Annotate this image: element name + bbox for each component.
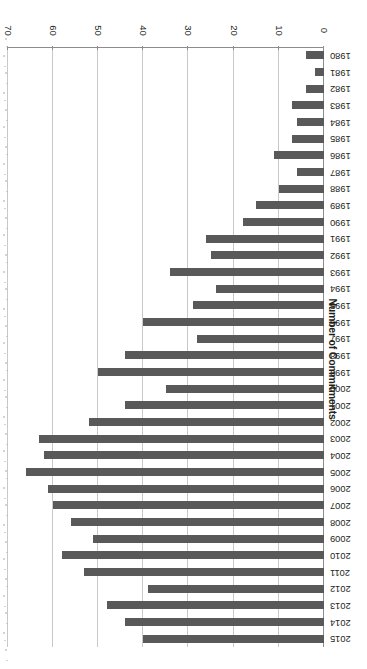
bar-2008 <box>71 518 324 526</box>
scan-speck <box>3 308 5 310</box>
bar-1982 <box>306 85 324 93</box>
bar-row: 1996 <box>7 314 324 331</box>
bar-row: 2007 <box>7 497 324 514</box>
category-tick-label: 2009 <box>330 532 351 545</box>
bar-1988 <box>279 185 324 193</box>
bar-row: 1981 <box>7 64 324 81</box>
scan-speck <box>3 632 5 634</box>
bar-row: 1989 <box>7 197 324 214</box>
bar-2014 <box>125 618 324 626</box>
bar-row: 2012 <box>7 580 324 597</box>
bar-row: 1985 <box>7 130 324 147</box>
scan-speck <box>3 126 5 128</box>
value-tick-label: 40 <box>138 21 149 41</box>
category-tick-label: 1995 <box>330 299 351 312</box>
bar-2009 <box>93 535 324 543</box>
value-tick-label: 0 <box>319 21 330 41</box>
bar-2001 <box>125 401 324 409</box>
bar-2000 <box>166 385 324 393</box>
bar-row: 1991 <box>7 230 324 247</box>
plot-area: 010203040506070 198019811982198319841985… <box>7 47 324 647</box>
category-tick-label: 2011 <box>330 566 350 579</box>
scan-speck <box>3 450 5 452</box>
bar-row: 1992 <box>7 247 324 264</box>
category-tick-label: 2002 <box>330 416 351 429</box>
category-tick-label: 2012 <box>330 582 351 595</box>
scan-speck <box>3 379 5 381</box>
category-tick-label: 1981 <box>330 66 351 79</box>
bar-1999 <box>98 368 324 376</box>
bar-1995 <box>193 301 324 309</box>
scan-speck <box>3 200 5 202</box>
scan-speck <box>3 595 5 597</box>
bar-1987 <box>297 168 324 176</box>
category-tick-label: 2006 <box>330 482 351 495</box>
bar-2004 <box>44 451 324 459</box>
scan-speck <box>3 487 5 489</box>
category-tick-label: 1980 <box>330 49 351 62</box>
bar-row: 1982 <box>7 80 324 97</box>
bar-1989 <box>256 201 324 209</box>
bar-1980 <box>306 51 324 59</box>
bar-1981 <box>315 68 324 76</box>
category-tick-label: 1987 <box>330 166 351 179</box>
bar-row: 2005 <box>7 464 324 481</box>
bar-row: 2008 <box>7 514 324 531</box>
bar-row: 1988 <box>7 180 324 197</box>
bar-row: 1984 <box>7 114 324 131</box>
category-tick-label: 1993 <box>330 266 351 279</box>
bar-2011 <box>84 568 324 576</box>
scan-speck <box>6 660 8 661</box>
bar-1983 <box>292 101 324 109</box>
bar-2006 <box>48 485 324 493</box>
bar-row: 1995 <box>7 297 324 314</box>
bar-1984 <box>297 118 324 126</box>
bar-1986 <box>274 151 324 159</box>
category-tick-label: 1982 <box>330 82 351 95</box>
scan-speck <box>3 558 5 560</box>
category-tick-label: 1983 <box>330 99 351 112</box>
bar-1996 <box>143 318 324 326</box>
category-tick-label: 1999 <box>330 366 351 379</box>
bar-2012 <box>148 585 324 593</box>
bar-row: 1987 <box>7 164 324 181</box>
bar-row: 2006 <box>7 480 324 497</box>
value-tick-label: 50 <box>93 21 104 41</box>
value-tick-label: 10 <box>273 21 284 41</box>
value-tick-label: 20 <box>228 21 239 41</box>
scan-speck <box>3 271 5 273</box>
bar-1997 <box>197 335 324 343</box>
bar-row: 1994 <box>7 280 324 297</box>
figure-rotated-container: Number of Commitments 010203040506070 19… <box>0 0 367 669</box>
category-tick-label: 2008 <box>330 516 351 529</box>
bar-row: 1999 <box>7 364 324 381</box>
scan-speck <box>3 416 5 418</box>
bar-2010 <box>62 551 324 559</box>
bar-row: 2004 <box>7 447 324 464</box>
bar-row: 1980 <box>7 47 324 64</box>
category-tick-label: 2005 <box>330 466 351 479</box>
bar-row: 1990 <box>7 214 324 231</box>
category-tick-label: 1991 <box>330 232 351 245</box>
bar-1990 <box>243 218 324 226</box>
category-tick-label: 1985 <box>330 132 351 145</box>
scan-speck <box>3 342 5 344</box>
bar-2015 <box>143 635 324 643</box>
scan-speck <box>3 92 5 94</box>
category-tick-label: 2010 <box>330 549 351 562</box>
bar-1992 <box>211 251 324 259</box>
bar-row: 2003 <box>7 430 324 447</box>
category-tick-label: 1988 <box>330 182 351 195</box>
scan-speck <box>3 234 5 236</box>
bar-row: 1998 <box>7 347 324 364</box>
bar-row: 2009 <box>7 530 324 547</box>
category-tick-label: 2003 <box>330 432 351 445</box>
category-tick-label: 2004 <box>330 449 351 462</box>
category-tick-label: 2000 <box>330 382 351 395</box>
category-tick-label: 1997 <box>330 332 351 345</box>
bar-row: 2010 <box>7 547 324 564</box>
value-tick-label: 60 <box>47 21 58 41</box>
bar-row: 1983 <box>7 97 324 114</box>
category-tick-label: 1994 <box>330 282 351 295</box>
category-tick-label: 1992 <box>330 249 351 262</box>
